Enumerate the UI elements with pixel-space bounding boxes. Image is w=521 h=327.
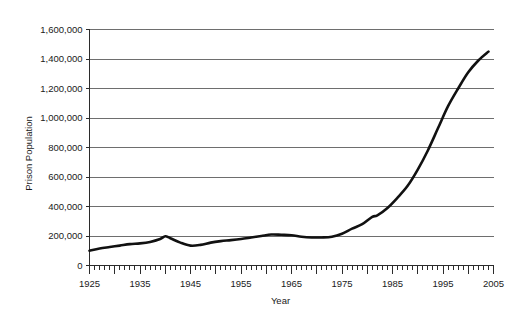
x-axis-tick-label: 1925 [79,278,100,289]
prison-population-series-line [90,52,489,251]
chart-canvas: 0200,000400,000600,000800,0001,000,0001,… [0,0,521,327]
x-axis-tick-label: 2005 [483,278,504,289]
x-axis-tick-label: 1945 [180,278,201,289]
x-axis-title: Year [271,295,290,306]
y-axis-tick-label: 800,000 [48,142,82,153]
y-axis-tick-label: 0 [77,260,82,271]
x-axis-tick-label: 1975 [331,278,352,289]
y-axis-tick-label: 1,200,000 [40,83,82,94]
y-axis-tick-label: 600,000 [48,171,82,182]
x-axis-tick-label: 1965 [281,278,302,289]
x-axis-tick-label: 1955 [230,278,251,289]
y-axis-title: Prison Population [23,116,34,190]
x-axis-tick-label: 1985 [382,278,403,289]
y-axis-label-group: 0200,000400,000600,000800,0001,000,0001,… [40,24,82,271]
y-axis-tick-label: 1,000,000 [40,112,82,123]
y-axis-tick-label: 1,600,000 [40,24,82,35]
prison-population-chart: 0200,000400,000600,000800,0001,000,0001,… [0,0,521,327]
gridlines-group [90,30,494,237]
y-axis-tick-label: 1,400,000 [40,53,82,64]
x-axis-tick-label: 1995 [432,278,453,289]
x-axis-label-group: 192519351945195519651975198519952005 [79,278,504,289]
y-axis-tick-label: 200,000 [48,230,82,241]
y-axis-tick-label: 400,000 [48,201,82,212]
x-axis-tick-label: 1935 [129,278,150,289]
